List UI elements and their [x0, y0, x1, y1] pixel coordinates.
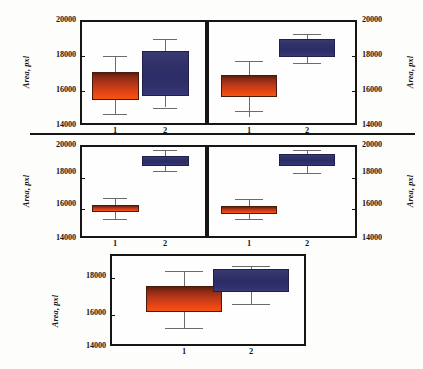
panel-bottom-center: 18000 16000 14000 Area, pxl 1 2 [64, 245, 310, 355]
whisker-cap-upper [293, 34, 321, 35]
y-tick-label: 16000 [34, 86, 76, 94]
whisker-cap-upper [232, 266, 270, 267]
y-tick-label: 14000 [34, 234, 76, 242]
x-category-label: 2 [249, 347, 253, 356]
y-tick-label: 20000 [34, 16, 76, 24]
box-whisker-series-2 [110, 254, 306, 346]
y-tick-label: 16000 [64, 309, 106, 317]
box-series-2 [279, 39, 335, 57]
box-series-2 [142, 51, 189, 97]
whisker-cap-lower [293, 63, 321, 64]
box-whisker-series-2 [207, 20, 357, 125]
y-axis-title: Area, pxl [22, 56, 31, 89]
x-category-label: 1 [182, 347, 186, 356]
box-whisker-series-2 [80, 20, 207, 125]
y-tick-label: 18000 [64, 272, 106, 280]
y-tick-label: 16000 [362, 86, 406, 94]
y-tick-label: 14000 [64, 342, 106, 350]
panel-top-left: 20000 18000 16000 14000 Area, pxl 1 2 [0, 0, 207, 133]
box-series-2 [142, 156, 189, 166]
boxplot-figure: 20000 18000 16000 14000 Area, pxl 1 2 [0, 0, 423, 369]
whisker-cap-lower [232, 304, 270, 305]
box-series-2 [279, 154, 335, 166]
y-axis-title: Area, pxl [51, 295, 60, 328]
y-tick-label: 20000 [34, 141, 76, 149]
y-tick-label: 14000 [362, 234, 406, 242]
whisker-cap-lower [293, 173, 321, 174]
y-tick-label: 18000 [362, 168, 406, 176]
y-tick-label: 18000 [34, 51, 76, 59]
whisker-cap-upper [153, 39, 177, 40]
y-tick-label: 16000 [362, 200, 406, 208]
box-whisker-series-2 [80, 145, 207, 238]
y-tick-label: 18000 [362, 51, 406, 59]
y-tick-label: 16000 [34, 200, 76, 208]
box-series-2 [213, 269, 289, 292]
y-axis-title: Area, pxl [22, 175, 31, 208]
y-tick-label: 14000 [34, 121, 76, 129]
panel-top-right: 1 2 20000 18000 16000 14000 Area, pxl [207, 0, 423, 133]
whisker-cap-lower [153, 108, 177, 109]
box-whisker-series-2 [207, 145, 357, 238]
panel-middle-left: 20000 18000 16000 14000 Area, pxl 1 2 [0, 133, 207, 245]
y-tick-label: 20000 [362, 141, 406, 149]
y-tick-label: 20000 [362, 16, 406, 24]
panel-middle-right: 1 2 20000 18000 16000 14000 Area, pxl [207, 133, 423, 245]
y-tick-label: 14000 [362, 121, 406, 129]
y-axis-title: Area, pxl [406, 175, 415, 208]
y-tick-label: 18000 [34, 168, 76, 176]
whisker-cap-upper [293, 150, 321, 151]
whisker-cap-lower [153, 171, 177, 172]
whisker-cap-upper [153, 150, 177, 151]
y-axis-title: Area, pxl [406, 56, 415, 89]
